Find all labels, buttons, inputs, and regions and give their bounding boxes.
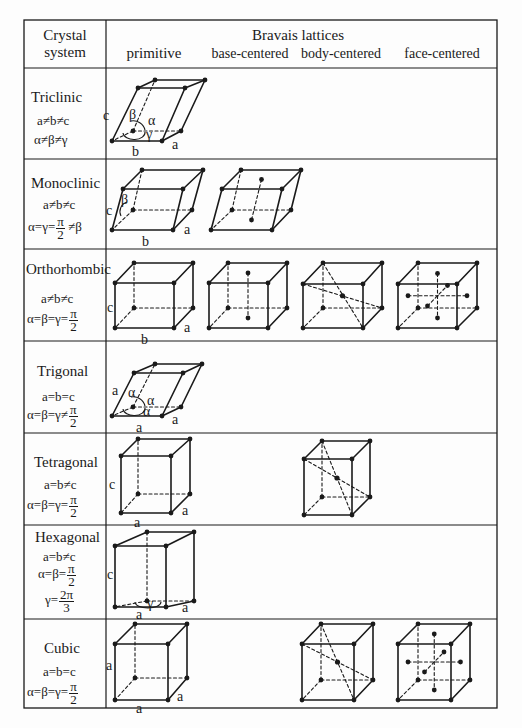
axis-label: b bbox=[141, 332, 148, 347]
lattice-point bbox=[185, 622, 190, 627]
lattice-point bbox=[321, 261, 326, 266]
lattice-point bbox=[188, 492, 193, 497]
lattice-point bbox=[368, 495, 373, 500]
lattice-point bbox=[226, 306, 231, 311]
axis-label: α bbox=[148, 113, 156, 128]
lattice-point bbox=[179, 405, 184, 410]
lattice-point bbox=[220, 187, 225, 192]
axis-label: c bbox=[106, 203, 112, 218]
lattice-point bbox=[132, 306, 137, 311]
lattice-point bbox=[113, 544, 118, 549]
lattice-point bbox=[416, 306, 421, 311]
lattice-point bbox=[352, 698, 357, 703]
lattice-cell-cubic-primitive: aaa bbox=[106, 622, 189, 716]
axis-label: γ bbox=[146, 596, 153, 611]
lattice-point bbox=[321, 306, 326, 311]
lattice-cell-orthorhombic-body bbox=[301, 261, 385, 331]
lattice-point bbox=[191, 261, 196, 266]
axis-label: a bbox=[136, 701, 143, 716]
lattice-point bbox=[361, 282, 366, 287]
lattice-point bbox=[172, 281, 177, 286]
lattice-point bbox=[352, 642, 357, 647]
lattice-point bbox=[259, 177, 264, 182]
lattice-point bbox=[396, 642, 401, 647]
lattice-point bbox=[246, 316, 251, 321]
lattice-point bbox=[207, 326, 212, 331]
lattice-point bbox=[226, 261, 231, 266]
lattice-point bbox=[432, 688, 437, 693]
axis-label: β bbox=[121, 192, 128, 207]
lattice-cell-trigonal-primitive: aaaααα bbox=[110, 362, 205, 435]
lattice-point bbox=[301, 282, 306, 287]
lattice-point bbox=[449, 642, 454, 647]
lattice-point bbox=[239, 168, 244, 173]
lattice-point bbox=[334, 475, 339, 480]
axis-label: a bbox=[182, 503, 189, 518]
lattice-point bbox=[133, 676, 138, 681]
lattice-point bbox=[320, 495, 325, 500]
lattice-point bbox=[136, 437, 141, 442]
lattice-point bbox=[132, 371, 137, 376]
lattice-point bbox=[285, 261, 290, 266]
lattice-point bbox=[270, 228, 275, 233]
lattice-point bbox=[164, 544, 169, 549]
lattice-point bbox=[319, 678, 324, 683]
lattice-point bbox=[475, 306, 480, 311]
lattice-point bbox=[140, 168, 145, 173]
lattice-point bbox=[160, 139, 165, 144]
lattice-cell-orthorhombic-face bbox=[396, 261, 480, 331]
lattice-point bbox=[371, 678, 376, 683]
lattice-cell-tetragonal-body bbox=[302, 439, 373, 518]
lattice-point bbox=[203, 78, 208, 83]
lattice-point bbox=[190, 208, 195, 213]
lattice-cell-monoclinic-primitive: cbaβ bbox=[106, 168, 205, 249]
lattice-point bbox=[172, 326, 177, 331]
lattice-cell-orthorhombic-base bbox=[207, 261, 290, 331]
lattice-point bbox=[458, 660, 463, 665]
lattice-point bbox=[301, 326, 306, 331]
axis-label: c bbox=[103, 108, 109, 123]
lattice-point bbox=[113, 698, 118, 703]
axis-label: a bbox=[134, 515, 141, 530]
lattice-point bbox=[209, 228, 214, 233]
lattice-point bbox=[432, 632, 437, 637]
lattice-point bbox=[113, 642, 118, 647]
lattice-point bbox=[319, 622, 324, 627]
lattice-point bbox=[289, 208, 294, 213]
lattice-point bbox=[121, 187, 126, 192]
lattice-point bbox=[171, 228, 176, 233]
lattice-point bbox=[406, 660, 411, 665]
lattice-point bbox=[465, 293, 470, 298]
lattice-point bbox=[442, 650, 447, 655]
lattice-point bbox=[468, 678, 473, 683]
lattice-point bbox=[136, 86, 141, 91]
lattice-point bbox=[131, 405, 136, 410]
axis-label: c bbox=[107, 300, 113, 315]
lattice-point bbox=[160, 414, 165, 419]
axis-label: a bbox=[184, 320, 191, 335]
lattice-point bbox=[200, 362, 205, 367]
lattice-cell-cubic-body bbox=[300, 622, 376, 703]
lattice-point bbox=[164, 605, 169, 610]
lattice-point bbox=[169, 511, 174, 516]
axis-label: c bbox=[107, 567, 113, 582]
lattice-point bbox=[455, 326, 460, 331]
lattice-point bbox=[280, 187, 285, 192]
lattice-point bbox=[132, 261, 137, 266]
lattice-point bbox=[396, 698, 401, 703]
lattice-point bbox=[406, 293, 411, 298]
lattice-point bbox=[380, 261, 385, 266]
axis-label: b bbox=[132, 144, 139, 159]
axis-label: α bbox=[128, 385, 136, 400]
lattice-point bbox=[435, 271, 440, 276]
lattice-point bbox=[350, 513, 355, 518]
lattice-point bbox=[181, 187, 186, 192]
axis-label: a bbox=[112, 383, 119, 398]
lattice-point bbox=[435, 316, 440, 321]
lattice-point bbox=[266, 326, 271, 331]
axis-label: γ bbox=[145, 127, 152, 142]
axis-label: a bbox=[172, 137, 179, 152]
lattice-point bbox=[133, 622, 138, 627]
lattice-drawings: cbaβαγcbaβcbaaaaαααcaacaaγaaa bbox=[0, 0, 522, 728]
lattice-point bbox=[181, 371, 186, 376]
